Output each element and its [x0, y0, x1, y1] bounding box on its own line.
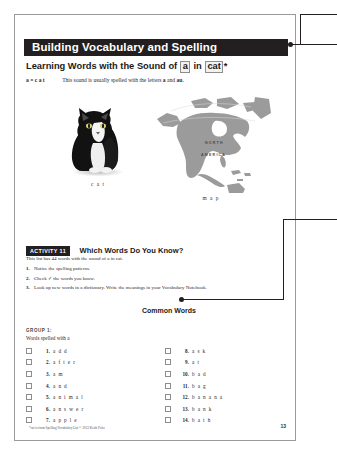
lesson-heading-asterisk: * — [224, 61, 228, 71]
figure-cat: c a t — [55, 97, 141, 187]
word-list-item[interactable]: 10. b a d — [165, 368, 285, 380]
figure-map: NORTH AMERICA m a p — [151, 93, 271, 201]
page-number: 13 — [280, 423, 286, 429]
word-text: a p p l e — [53, 417, 78, 423]
checkbox-icon[interactable] — [26, 406, 32, 412]
group-subheading: Words spelled with a — [26, 335, 70, 341]
word-number: 13. — [178, 406, 189, 412]
word-number: 1. — [39, 348, 50, 354]
lesson-heading: Learning Words with the Sound of a in ca… — [26, 61, 288, 73]
checkbox-icon[interactable] — [165, 383, 171, 389]
word-list-item[interactable]: 4. a n d — [26, 380, 146, 392]
figure-map-caption: m a p — [151, 195, 271, 201]
cat-photo — [55, 97, 141, 179]
checkbox-icon[interactable] — [165, 394, 171, 400]
step-number: 1. — [26, 266, 34, 271]
activity-intro: This list has 44 words with the sound of… — [26, 256, 276, 261]
word-list-item[interactable]: 5. a n i m a l — [26, 391, 146, 403]
checkbox-icon[interactable] — [165, 348, 171, 354]
word-number: 10. — [178, 371, 189, 377]
word-number: 2. — [39, 359, 50, 365]
step-number: 2. — [26, 276, 34, 281]
word-list-item[interactable]: 2. a f t e r — [26, 357, 146, 369]
word-text: a t — [192, 359, 200, 365]
step-text: Look up new words in a dictionary. Write… — [34, 285, 207, 290]
word-list-item[interactable]: 13. b a n k — [165, 403, 285, 415]
checkbox-icon[interactable] — [165, 406, 171, 412]
checkbox-icon[interactable] — [26, 371, 32, 377]
page-title: Building Vocabulary and Spelling — [32, 41, 217, 53]
word-number: 5. — [39, 394, 50, 400]
word-list-item[interactable]: 14. b a t h — [165, 415, 285, 427]
checkbox-icon[interactable] — [165, 417, 171, 423]
word-list-right: 8. a s k 9. a t 10. b a d 11. b a g 12. … — [165, 345, 285, 426]
step-number: 3. — [26, 285, 34, 290]
word-text: a f t e r — [53, 359, 76, 365]
phonics-line: a = c a t This sound is usually spelled … — [26, 77, 288, 83]
page-title-banner: Building Vocabulary and Spelling — [24, 39, 288, 56]
common-words-callout-label: Common Words — [142, 307, 196, 314]
activity-steps: 1.Notice the spelling patterns. 2.Check … — [26, 266, 281, 295]
step-text: Notice the spelling patterns. — [34, 266, 90, 271]
word-number: 4. — [39, 383, 50, 389]
word-list-item[interactable]: 6. a n s w e r — [26, 403, 146, 415]
checkbox-icon[interactable] — [26, 348, 32, 354]
word-text: b a n k — [192, 406, 212, 412]
boxed-letter-a: a — [180, 61, 190, 73]
word-text: a n i m a l — [53, 394, 84, 400]
word-number: 12. — [178, 394, 189, 400]
word-text: a n d — [53, 383, 68, 389]
word-list-item[interactable]: 1. a d d — [26, 345, 146, 357]
word-text: a n s w e r — [53, 406, 84, 412]
checkbox-icon[interactable] — [26, 417, 32, 423]
activity-step: 3.Look up new words in a dictionary. Wri… — [26, 285, 281, 290]
word-text: b a t h — [192, 417, 211, 423]
map-label-america: AMERICA — [201, 153, 226, 157]
word-list-item[interactable]: 3. a m — [26, 368, 146, 380]
word-list-left: 1. a d d 2. a f t e r 3. a m 4. a n d 5.… — [26, 345, 146, 426]
group-heading: GROUP 1: — [26, 328, 52, 333]
word-number: 14. — [178, 417, 189, 423]
word-text: a d d — [53, 348, 68, 354]
word-list-item[interactable]: 11. b a g — [165, 380, 285, 392]
word-text: b a d — [192, 371, 207, 377]
checkbox-icon[interactable] — [26, 394, 32, 400]
activity-badge: ACTIVITY 11 — [26, 246, 70, 256]
word-list-item[interactable]: 7. a p p l e — [26, 415, 146, 427]
phonics-sentence-before: This sound is usually spelled with the l… — [62, 77, 163, 83]
phonics-key: a = c a t — [26, 77, 45, 83]
phonics-sentence-end: . — [182, 77, 183, 83]
word-number: 7. — [39, 417, 50, 423]
word-number: 6. — [39, 406, 50, 412]
word-number: 9. — [178, 359, 189, 365]
checkbox-icon[interactable] — [26, 359, 32, 365]
word-list-item[interactable]: 8. a s k — [165, 345, 285, 357]
activity-title: Which Words Do You Know? — [80, 246, 184, 255]
word-list-item[interactable]: 9. a t — [165, 357, 285, 369]
activity-step: 2.Check ✓ the words you know. — [26, 275, 281, 281]
phonics-sentence-middle: and — [166, 77, 177, 83]
boxed-word-cat: cat — [205, 61, 223, 73]
checkbox-icon[interactable] — [165, 371, 171, 377]
callout-line-title-top — [300, 14, 337, 15]
word-text: a m — [53, 371, 63, 377]
word-number: 8. — [178, 348, 189, 354]
map-label-north: NORTH — [205, 141, 224, 145]
word-text: b a g — [192, 383, 207, 389]
callout-line-title-horizontal — [292, 44, 337, 45]
activity-step: 1.Notice the spelling patterns. — [26, 266, 281, 271]
checkbox-icon[interactable] — [165, 359, 171, 365]
phonics-sentence: This sound is usually spelled with the l… — [62, 77, 184, 83]
footnote: *cat is from Spelling Vocabulary List © … — [29, 426, 229, 430]
figure-row: c a t — [15, 93, 296, 223]
step-text: Check ✓ the words you know. — [34, 276, 95, 281]
checkbox-icon[interactable] — [26, 383, 32, 389]
lesson-heading-before: Learning Words with the Sound of — [26, 61, 177, 71]
word-list-item[interactable]: 12. b a n a n a — [165, 391, 285, 403]
word-text: b a n a n a — [192, 394, 223, 400]
word-number: 11. — [178, 383, 189, 389]
callout-line-title-vertical — [300, 14, 301, 45]
word-text: a s k — [192, 348, 206, 354]
word-number: 3. — [39, 371, 50, 377]
figure-cat-caption: c a t — [55, 181, 141, 187]
